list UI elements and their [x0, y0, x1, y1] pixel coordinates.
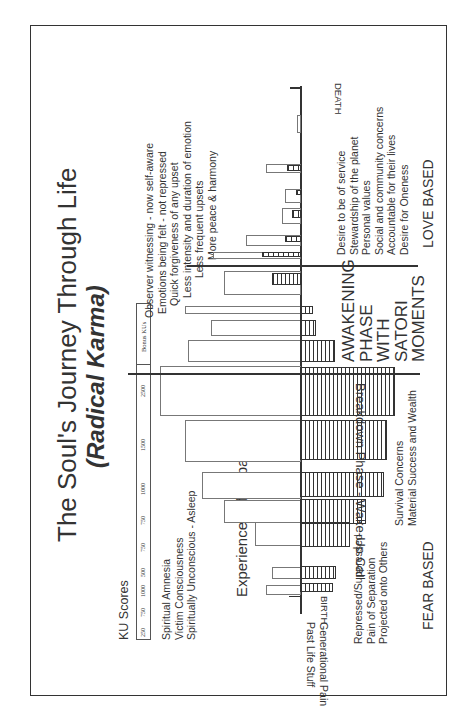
page-title: The Soul's Journey Through Life [52, 168, 83, 543]
ku-score: 2500 [137, 359, 150, 419]
love-consciousness-notes: Observer witnessing - now self-aware Emo… [143, 121, 219, 318]
ku-scores-label: KU Scores [118, 580, 131, 640]
fear-based-label: FEAR BASED [420, 541, 436, 630]
breakdown-divider [128, 373, 420, 375]
fear-consciousness-notes: Spiritual Amnesia Victim Consciousness S… [160, 491, 198, 640]
ku-score: 1000 [137, 581, 150, 603]
ku-score: 750 [137, 509, 150, 534]
ku-score: 250 [137, 621, 150, 641]
ku-score: 1000 [137, 469, 150, 509]
love-based-label: LOVE BASED [420, 159, 436, 248]
love-notes-group: Desire to be of service Stewardship of t… [335, 107, 411, 255]
birth-tick [289, 596, 300, 597]
love-divider [187, 265, 418, 267]
ku-score-strip: 250 750 1000 500 750 750 1000 1500 2500 [136, 358, 151, 640]
birth-label: BIRTH [317, 596, 330, 624]
awakening-phase-label: AWAKENING PHASE WITH SATORI MOMENTS [340, 259, 428, 362]
pre-birth-notes: Generational Pain Past Life Stuff [305, 622, 330, 706]
ku-score: 1500 [137, 419, 150, 469]
ku-score: 750 [137, 603, 150, 621]
page-subtitle: (Radical Karma) [82, 285, 110, 468]
fear-notes-group-2: Survival Concerns Material Success and W… [393, 390, 418, 526]
ku-score: 500 [137, 564, 150, 581]
fear-notes-group-1: Repressed/Suppressed Pain of Separation … [352, 534, 390, 644]
ku-score: 750 [137, 534, 150, 564]
death-tick [290, 87, 300, 89]
